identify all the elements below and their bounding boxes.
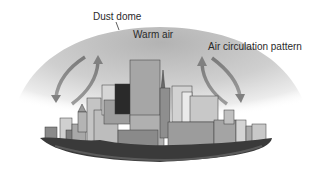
dust-dome-leader-line (116, 22, 119, 30)
air-circulation-label: Air circulation pattern (208, 42, 302, 52)
dust-dome-diagram (0, 0, 325, 174)
dust-dome-label: Dust dome (93, 12, 141, 22)
warm-air-label: Warm air (133, 30, 173, 40)
